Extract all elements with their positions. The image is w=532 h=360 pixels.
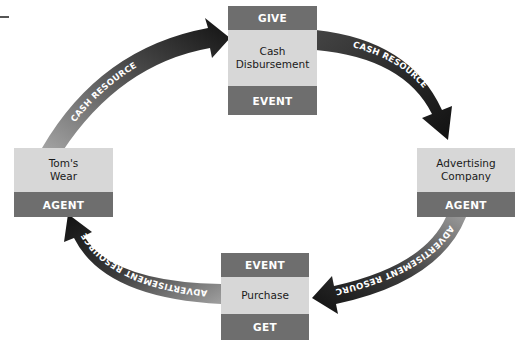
node-header: EVENT (221, 253, 309, 277)
arrow-cash-to-disbursement: CASH RESOURCE (42, 18, 230, 152)
node-toms-wear: Tom's Wear AGENT (14, 148, 113, 217)
arrow-label: CASH RESOURCE (68, 60, 138, 124)
node-title: Tom's Wear (14, 148, 113, 192)
node-title: Purchase (221, 277, 309, 314)
node-title: Cash Disbursement (228, 30, 317, 86)
node-footer: GET (221, 314, 309, 340)
node-advertising-company: Advertising Company AGENT (417, 148, 515, 217)
arrow-cash-to-advertising: CASH RESOURCE (316, 30, 452, 140)
node-footer: AGENT (14, 192, 113, 217)
node-footer: EVENT (228, 86, 317, 115)
node-footer: AGENT (417, 192, 515, 217)
svg-text:CASH RESOURCE: CASH RESOURCE (68, 60, 138, 124)
arrow-advertisement-to-toms-wear: ADVERTISEMENT RESOURCE (64, 214, 221, 304)
node-header: GIVE (228, 6, 317, 30)
node-purchase: EVENT Purchase GET (221, 253, 309, 340)
node-title: Advertising Company (417, 148, 515, 192)
node-cash-disbursement: GIVE Cash Disbursement EVENT (228, 6, 317, 115)
